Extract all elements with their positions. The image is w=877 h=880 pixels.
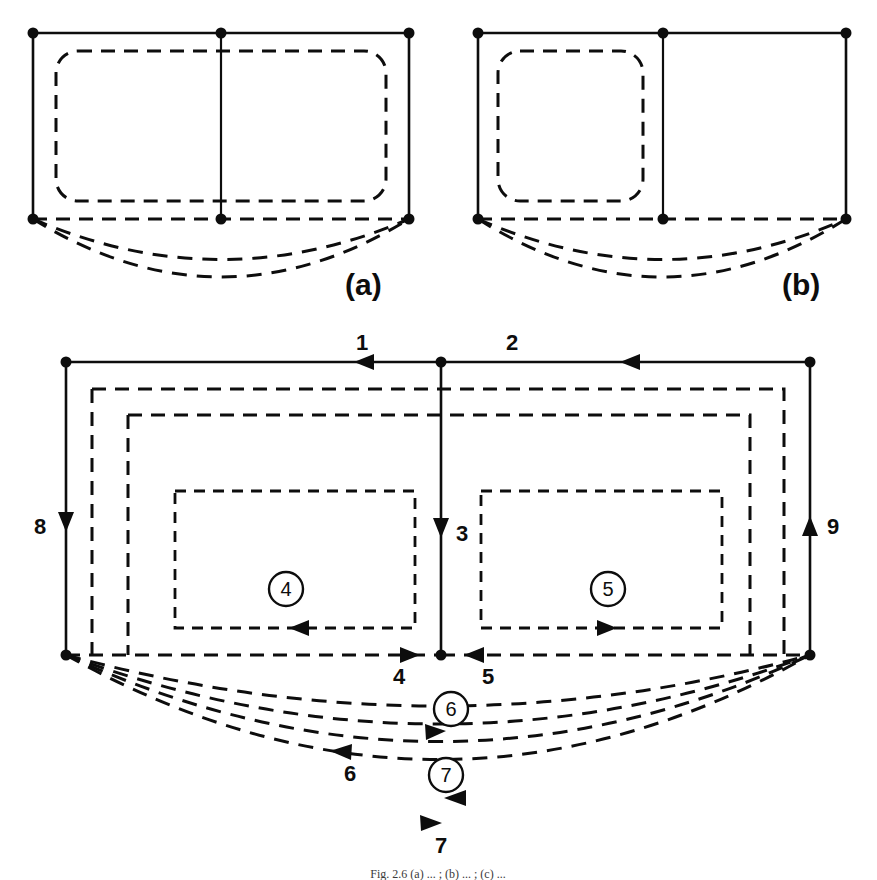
panel-a-node-bm [216,214,227,225]
panel-a-node-tr [404,28,415,39]
panel-b-node-tl [473,28,484,39]
main-node-bm [436,650,447,661]
panel-a-node-tm [216,28,227,39]
main-inner-loop-right-path [481,491,722,628]
panel-a-node-br [404,214,415,225]
arrowhead-arc-4 [420,815,442,831]
panel-b-arc-1 [478,219,846,260]
figure-root: (a) (b) 1 [0,0,877,880]
panel-a [28,28,415,278]
main-node-tm [436,357,447,368]
panel-b-node-bl [473,214,484,225]
circled-label-4: 4 [280,578,291,600]
main-inner-loop-left-path [175,491,415,628]
panel-a-node-tl [28,28,39,39]
panel-a-node-bl [28,214,39,225]
circled-label-6: 6 [445,698,456,720]
label-8: 8 [34,514,46,539]
arrowhead-9 [802,516,818,536]
arrowhead-loop-right [597,620,617,636]
arrowhead-5 [464,647,484,663]
arrowhead-loop-left [289,620,309,636]
label-arc-6: 6 [344,761,356,786]
label-arc-7: 7 [435,833,447,858]
circled-label-7: 7 [440,764,451,786]
label-9: 9 [827,514,839,539]
circled-label-5: 5 [602,578,613,600]
arrowhead-arc-2 [330,744,352,760]
arrowhead-4 [400,647,420,663]
panel-b [473,28,852,278]
label-5: 5 [482,664,494,689]
main-node-br [805,650,816,661]
panel-a-arc-1 [33,219,409,260]
panel-b-node-tm [658,28,669,39]
panel-b-node-bm [658,214,669,225]
arrowhead-2 [620,354,640,370]
arrowhead-1 [354,354,374,370]
panel-b-node-tr [841,28,852,39]
panel-b-node-br [841,214,852,225]
arrowhead-arc-1 [425,724,446,740]
panel-a-label: (a) [345,268,382,301]
main-panel: 1 2 3 8 9 4 5 4 5 [34,330,839,858]
main-node-tl [61,357,72,368]
label-3: 3 [456,521,468,546]
arrowhead-3 [433,518,449,538]
panel-b-inner-loop [498,51,643,201]
label-4: 4 [393,664,406,689]
main-node-tr [805,357,816,368]
label-1: 1 [356,330,368,355]
panel-b-label: (b) [782,268,820,301]
figure-canvas: (a) (b) 1 [0,0,877,880]
main-node-bl [61,650,72,661]
label-2: 2 [506,330,518,355]
main-dashed-loop-second [128,415,750,655]
figure-caption: Fig. 2.6 (a) ... ; (b) ... ; (c) ... [370,867,505,880]
arrowhead-8 [58,512,74,532]
